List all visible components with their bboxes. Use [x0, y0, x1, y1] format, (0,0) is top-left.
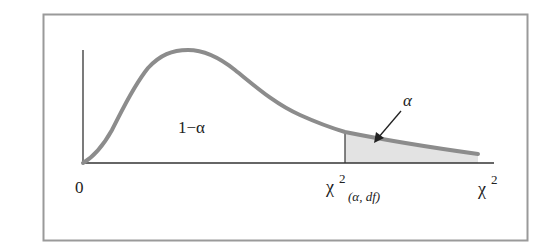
area-left-label: 1−α [178, 118, 205, 137]
figure-frame [44, 15, 528, 241]
origin-label: 0 [75, 178, 84, 197]
diagram-canvas: 0 1−α α χ 2 (α, df) χ 2 [0, 0, 554, 251]
alpha-label: α [403, 91, 413, 110]
critical-value-symbol: χ [325, 177, 334, 197]
chi-square-diagram: 0 1−α α χ 2 (α, df) χ 2 [0, 0, 554, 251]
x-axis-symbol: χ [477, 179, 486, 199]
critical-value-subscript: (α, df) [348, 189, 380, 204]
critical-value-superscript: 2 [339, 171, 346, 186]
x-axis-superscript: 2 [491, 172, 498, 187]
